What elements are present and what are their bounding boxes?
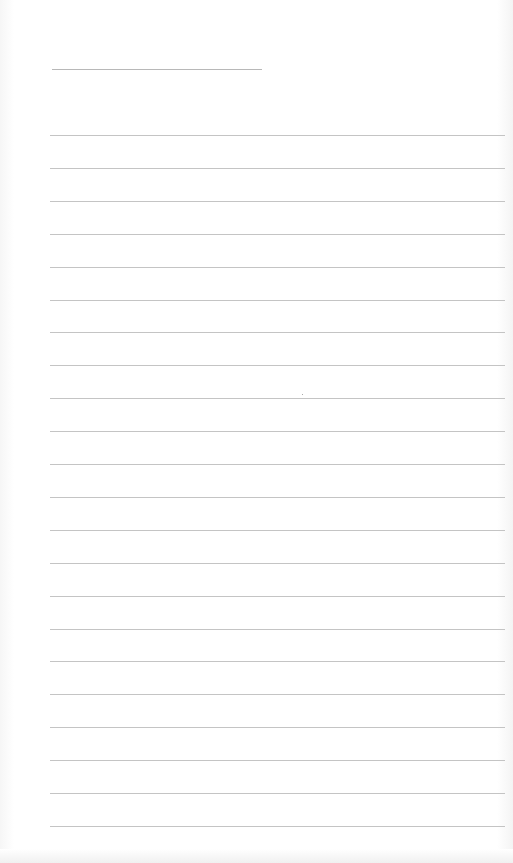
- rule-line: [50, 332, 505, 333]
- rule-line: [50, 694, 505, 695]
- rule-line: [50, 497, 505, 498]
- rule-line: [50, 365, 505, 366]
- rule-line: [50, 267, 505, 268]
- rule-line: [50, 464, 505, 465]
- rule-line: [50, 135, 505, 136]
- title-line: [52, 69, 262, 70]
- rule-line: [50, 168, 505, 169]
- lined-paper-page: [0, 0, 513, 863]
- rule-line: [50, 563, 505, 564]
- rule-line: [50, 596, 505, 597]
- rule-line: [50, 201, 505, 202]
- rule-line: [50, 793, 505, 794]
- rule-line: [50, 530, 505, 531]
- rule-line: [50, 234, 505, 235]
- stray-mark: [302, 394, 303, 395]
- rule-line: [50, 431, 505, 432]
- rule-line: [50, 629, 505, 630]
- page-edge-shadow: [0, 849, 513, 863]
- rule-line: [50, 300, 505, 301]
- rule-line: [50, 727, 505, 728]
- rule-line: [50, 760, 505, 761]
- rule-line: [50, 661, 505, 662]
- rule-line: [50, 398, 505, 399]
- rule-line: [50, 826, 505, 827]
